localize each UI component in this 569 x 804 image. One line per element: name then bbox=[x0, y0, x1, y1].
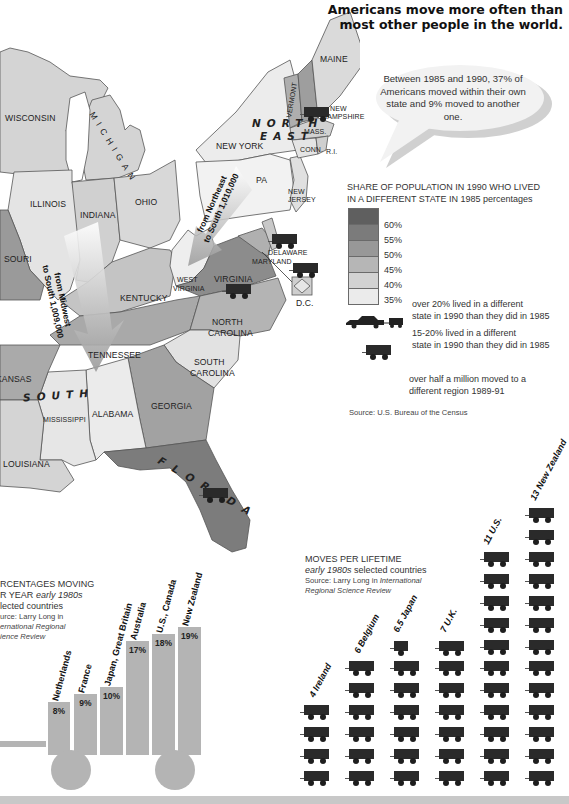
swatch-35 bbox=[348, 288, 379, 305]
label-west-virginia-1: WEST bbox=[177, 276, 198, 283]
label-south-carolina-1: SOUTH bbox=[194, 357, 225, 367]
wagon bbox=[480, 727, 509, 742]
wagon bbox=[390, 661, 419, 676]
cart-wheel-right bbox=[155, 750, 195, 790]
wagon bbox=[525, 552, 554, 567]
wagon bbox=[390, 705, 419, 720]
label-alabama: ALABAMA bbox=[92, 409, 133, 419]
legend-note-over-20: over 20% lived in a differentstate in 19… bbox=[412, 298, 550, 322]
wagon bbox=[525, 574, 554, 589]
label-new-jersey-1: NEW bbox=[288, 188, 305, 195]
label-ohio: OHIO bbox=[135, 197, 157, 207]
cart-wheel-left bbox=[51, 750, 91, 790]
wagon bbox=[345, 749, 374, 764]
wagon bbox=[525, 683, 554, 698]
wagon bbox=[345, 661, 374, 676]
label-indiana: INDIANA bbox=[80, 210, 116, 220]
label-georgia: GEORGIA bbox=[151, 401, 192, 411]
headline: Americans move more often than most othe… bbox=[328, 2, 563, 32]
label-maryland: MARYLAND bbox=[252, 258, 292, 265]
wagon bbox=[345, 727, 374, 742]
swatch-label-45: 45% bbox=[384, 265, 402, 275]
label-south-carolina-2: CAROLINA bbox=[190, 368, 235, 378]
wagon bbox=[435, 641, 464, 656]
swatch-40 bbox=[348, 272, 379, 288]
label-new-jersey-2: JERSEY bbox=[288, 196, 316, 203]
wagon bbox=[525, 727, 554, 742]
wagon bbox=[435, 727, 464, 742]
label-north-carolina-2: CAROLINA bbox=[208, 328, 253, 338]
wagon bbox=[525, 530, 554, 545]
bar-us-canada: 18% U.S., Canada bbox=[151, 634, 175, 755]
label-kansas: KANSAS bbox=[0, 374, 31, 384]
swatch-label-40: 40% bbox=[384, 280, 402, 290]
label-delaware: DELAWARE bbox=[268, 249, 308, 256]
swatch-label-35: 35% bbox=[384, 295, 402, 305]
wagon bbox=[345, 705, 374, 720]
swatch-60 bbox=[348, 208, 379, 224]
wagon bbox=[435, 705, 464, 720]
wagon bbox=[435, 683, 464, 698]
wagon bbox=[525, 640, 554, 655]
headline-line-2: most other people in the world. bbox=[328, 17, 563, 32]
label-virginia: VIRGINIA bbox=[214, 274, 253, 284]
callout-text: Between 1985 and 1990, 37% of Americans … bbox=[378, 73, 528, 123]
wagon bbox=[435, 749, 464, 764]
wagon bbox=[525, 661, 554, 676]
wagon bbox=[300, 727, 329, 742]
wagon bbox=[480, 574, 509, 589]
wagon bbox=[300, 705, 329, 720]
legend-note-arrow: over half a million moved to adifferent … bbox=[409, 373, 526, 397]
wagon bbox=[480, 749, 509, 764]
label-north-carolina-1: NORTH bbox=[212, 317, 243, 327]
moves-chart-title: MOVES PER LIFETIME early 1980s selected … bbox=[305, 554, 427, 596]
percent-chart-handle bbox=[0, 741, 46, 747]
wagon bbox=[480, 661, 509, 676]
label-illinois: ILLINOIS bbox=[30, 199, 66, 209]
wagon bbox=[390, 683, 419, 698]
wagon bbox=[480, 596, 509, 611]
wagon bbox=[480, 705, 509, 720]
wagon bbox=[525, 771, 554, 786]
legend-swatches bbox=[348, 208, 379, 305]
bottom-strip bbox=[0, 796, 569, 804]
label-kentucky: KENTUCKY bbox=[120, 293, 168, 303]
bar-france: 9% France bbox=[73, 694, 97, 755]
wagon bbox=[390, 727, 419, 742]
wagon bbox=[300, 749, 329, 764]
legend-note-15-20: 15-20% lived in a differentstate in 1990… bbox=[412, 327, 550, 351]
swatch-55 bbox=[348, 224, 379, 240]
wagon bbox=[435, 661, 464, 676]
wagon bbox=[480, 771, 509, 786]
label-ri: R.I. bbox=[326, 148, 337, 155]
wagon bbox=[300, 771, 329, 786]
label-mass: MASS. bbox=[304, 128, 326, 135]
bar-japan-great-britain: 10% Japan, Great Britain bbox=[99, 687, 123, 755]
wagon bbox=[525, 618, 554, 633]
label-new-york: NEW YORK bbox=[216, 141, 263, 151]
wagon bbox=[525, 749, 554, 764]
car-trailer-icon bbox=[346, 315, 404, 329]
trailer-icon-florida bbox=[199, 488, 228, 503]
trailer-icon-nh bbox=[300, 107, 329, 122]
wagon bbox=[525, 508, 554, 523]
label-west-virginia-2: VIRGINIA bbox=[173, 285, 205, 292]
bar-australia: 17% Australia bbox=[125, 641, 149, 755]
swatch-45 bbox=[348, 256, 379, 272]
swatch-label-55: 55% bbox=[384, 235, 402, 245]
label-pa: PA bbox=[256, 175, 267, 185]
label-tennessee: TENNESSEE bbox=[88, 350, 141, 360]
wagon bbox=[480, 640, 509, 655]
swatch-label-60: 60% bbox=[384, 220, 402, 230]
label-missouri: SOURI bbox=[4, 254, 32, 264]
trailer-icon-legend bbox=[362, 345, 391, 360]
swatch-50 bbox=[348, 240, 379, 256]
label-mississippi: MISSISSIPPI bbox=[43, 416, 86, 423]
label-wisconsin: WISCONSIN bbox=[5, 113, 56, 123]
wagon bbox=[525, 596, 554, 611]
legend-title: SHARE OF POPULATION IN 1990 WHO LIVED IN… bbox=[347, 182, 540, 205]
half-wagon bbox=[390, 641, 408, 656]
label-maine: MAINE bbox=[320, 54, 348, 64]
swatch-label-50: 50% bbox=[384, 250, 402, 260]
wagon bbox=[435, 771, 464, 786]
